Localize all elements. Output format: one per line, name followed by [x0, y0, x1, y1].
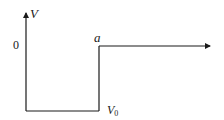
- well-depth-label: V0: [107, 104, 118, 118]
- well-depth-subscript: 0: [114, 109, 118, 118]
- well-edge-label: a: [94, 31, 101, 44]
- zero-level-label: 0: [13, 39, 19, 51]
- y-axis-label: V: [30, 7, 38, 20]
